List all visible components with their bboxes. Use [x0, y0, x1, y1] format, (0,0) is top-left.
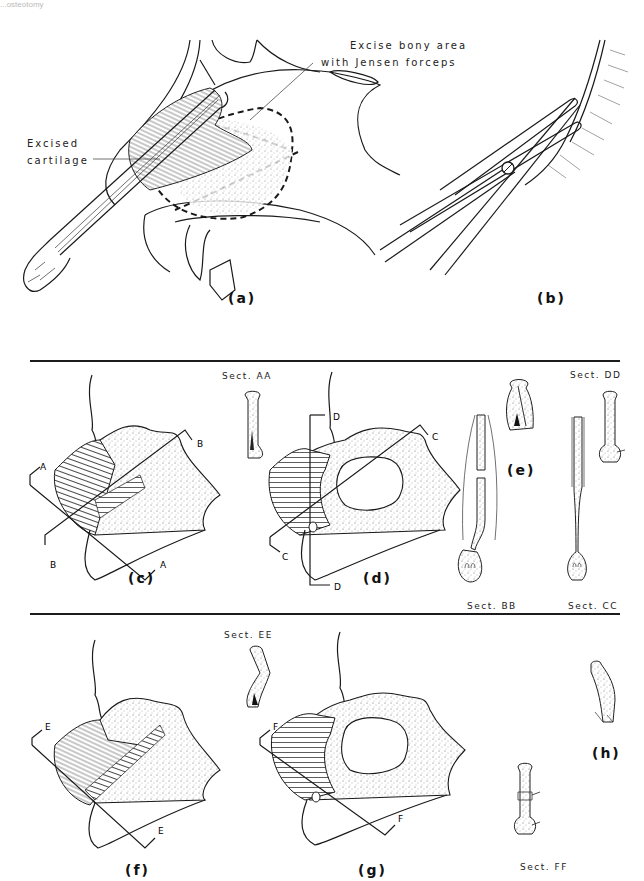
svg-text:F: F: [273, 722, 278, 732]
section-ff-icon: [510, 762, 540, 842]
svg-text:F: F: [398, 814, 403, 824]
figure-h-caption: (h): [592, 745, 621, 761]
figure-g-section-drawing: F F: [0, 0, 644, 881]
figure-g-caption: (g): [358, 862, 387, 878]
section-label-ff: Sect. FF: [520, 862, 568, 872]
section-h-icon: [585, 660, 625, 730]
